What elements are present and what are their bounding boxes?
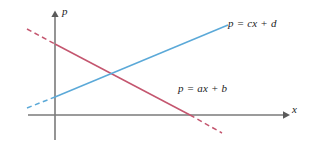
y-axis-group [51,11,58,141]
series-red-dashed-right [190,115,222,133]
x-axis-arrowhead [283,111,290,119]
series-label-p-cx-d: p = cx + d [228,17,277,29]
series-blue-dashed-left [27,97,55,108]
x-axis-label: x [292,103,297,115]
y-axis-label: p [62,5,68,17]
series-line-p-ax-b [27,29,222,133]
series-red-solid [55,44,190,115]
series-line-p-cx-d [27,25,228,108]
series-red-dashed-left [27,29,55,44]
x-axis-group [28,111,290,119]
series-label-p-ax-b: p = ax + b [178,82,227,94]
line-graph-figure: p = cx + d p = ax + b p x [0,0,312,152]
y-axis-arrowhead [51,11,58,18]
